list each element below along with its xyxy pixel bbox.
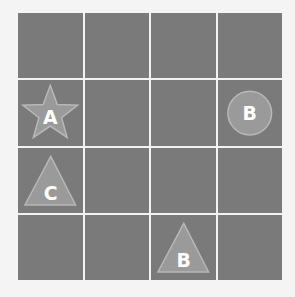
board-cell-r2-c0[interactable]: C (18, 148, 83, 213)
piece-label: B (242, 103, 256, 124)
piece-star-a[interactable]: A (18, 80, 83, 145)
piece-circle-b[interactable]: B (218, 80, 283, 145)
board-cell-r2-c1[interactable] (85, 148, 150, 213)
piece-label: C (44, 182, 58, 203)
piece-label: A (43, 107, 58, 128)
board-cell-r0-c0[interactable] (18, 13, 83, 78)
board-cell-r3-c1[interactable] (85, 215, 150, 280)
board-cell-r3-c2[interactable]: B (151, 215, 216, 280)
board-cell-r2-c3[interactable] (218, 148, 283, 213)
piece-triangle-c[interactable]: C (18, 148, 83, 213)
board-cell-r0-c1[interactable] (85, 13, 150, 78)
board-cell-r3-c3[interactable] (218, 215, 283, 280)
board-cell-r1-c3[interactable]: B (218, 80, 283, 145)
game-board: ABCB (18, 13, 282, 280)
piece-label: B (177, 250, 191, 271)
board-cell-r1-c1[interactable] (85, 80, 150, 145)
board-cell-r0-c2[interactable] (151, 13, 216, 78)
board-cell-r1-c0[interactable]: A (18, 80, 83, 145)
board-cell-r3-c0[interactable] (18, 215, 83, 280)
board-cell-r1-c2[interactable] (151, 80, 216, 145)
board-cell-r0-c3[interactable] (218, 13, 283, 78)
board-cell-r2-c2[interactable] (151, 148, 216, 213)
piece-triangle-b[interactable]: B (151, 215, 216, 280)
